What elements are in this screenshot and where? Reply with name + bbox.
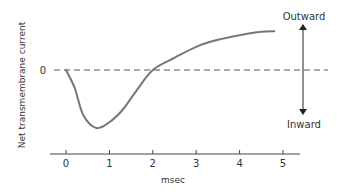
current-curve <box>66 31 274 128</box>
inward-label: Inward <box>287 119 321 130</box>
zero-label: 0 <box>40 65 46 76</box>
y-axis-label: Net transmembrane current <box>17 21 27 148</box>
x-tick-label: 2 <box>150 158 156 169</box>
x-tick-label: 3 <box>193 158 199 169</box>
outward-label: Outward <box>283 11 326 22</box>
x-axis-label: msec <box>161 175 185 185</box>
x-tick-label: 1 <box>106 158 112 169</box>
x-tick-label: 5 <box>280 158 286 169</box>
x-tick-label: 0 <box>63 158 69 169</box>
current-chart: Net transmembrane current 0 012345 msec … <box>0 0 339 192</box>
x-tick-label: 4 <box>236 158 242 169</box>
x-axis-ticks: 012345 <box>63 150 286 169</box>
